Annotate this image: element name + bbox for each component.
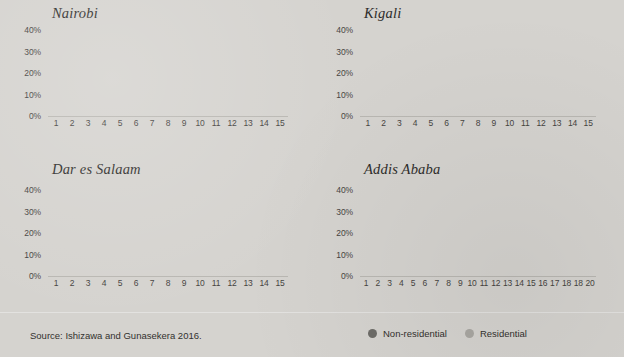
bar-slot[interactable] bbox=[176, 30, 192, 116]
bar-slot[interactable] bbox=[384, 190, 396, 276]
bar-slot[interactable] bbox=[502, 190, 514, 276]
x-tick-label: 18 bbox=[572, 278, 584, 288]
bar-slot[interactable] bbox=[561, 190, 573, 276]
y-tick-label: 30% bbox=[336, 47, 353, 57]
bar-slot[interactable] bbox=[407, 190, 419, 276]
x-tick-label: 7 bbox=[431, 278, 443, 288]
bar-slot[interactable] bbox=[549, 30, 565, 116]
bar-slot[interactable] bbox=[224, 30, 240, 116]
bar-slot[interactable] bbox=[490, 190, 502, 276]
x-tick-label: 13 bbox=[240, 278, 256, 288]
y-tick-label: 20% bbox=[336, 68, 353, 78]
bar-slot[interactable] bbox=[391, 30, 407, 116]
bar-slot[interactable] bbox=[80, 30, 96, 116]
bar-slot[interactable] bbox=[525, 190, 537, 276]
bar-slot[interactable] bbox=[360, 30, 376, 116]
bar-slot[interactable] bbox=[517, 30, 533, 116]
bar-slot[interactable] bbox=[443, 190, 455, 276]
bar-slot[interactable] bbox=[96, 190, 112, 276]
bar-slot[interactable] bbox=[454, 30, 470, 116]
bar-slot[interactable] bbox=[466, 190, 478, 276]
bar-slot[interactable] bbox=[470, 30, 486, 116]
bar-slot[interactable] bbox=[160, 190, 176, 276]
bar-slot[interactable] bbox=[240, 30, 256, 116]
plot-area-dar-es-salaam bbox=[48, 190, 288, 276]
bar-slot[interactable] bbox=[176, 190, 192, 276]
x-tick-label: 13 bbox=[240, 118, 256, 128]
bar-slot[interactable] bbox=[580, 30, 596, 116]
bar-group-kigali bbox=[360, 30, 596, 116]
y-tick-label: 10% bbox=[24, 90, 41, 100]
bar-slot[interactable] bbox=[423, 30, 439, 116]
y-tick-label: 0% bbox=[29, 111, 41, 121]
x-tick-label: 7 bbox=[144, 118, 160, 128]
bar-slot[interactable] bbox=[439, 30, 455, 116]
bar-slot[interactable] bbox=[376, 30, 392, 116]
bar-slot[interactable] bbox=[486, 30, 502, 116]
x-axis-line-nairobi bbox=[48, 116, 288, 117]
x-tick-label: 3 bbox=[80, 278, 96, 288]
chart-title-dar-es-salaam: Dar es Salaam bbox=[52, 161, 141, 178]
x-tick-label: 7 bbox=[144, 278, 160, 288]
bar-slot[interactable] bbox=[80, 190, 96, 276]
bar-slot[interactable] bbox=[208, 30, 224, 116]
bar-slot[interactable] bbox=[549, 190, 561, 276]
bar-slot[interactable] bbox=[478, 190, 490, 276]
bar-slot[interactable] bbox=[128, 190, 144, 276]
x-tick-label: 2 bbox=[64, 118, 80, 128]
x-tick-label: 12 bbox=[533, 118, 549, 128]
bar-slot[interactable] bbox=[112, 30, 128, 116]
bar-slot[interactable] bbox=[372, 190, 384, 276]
bar-slot[interactable] bbox=[537, 190, 549, 276]
bar-slot[interactable] bbox=[64, 190, 80, 276]
x-tick-label: 3 bbox=[391, 118, 407, 128]
figure-footer: Source: Ishizawa and Gunasekera 2016. No… bbox=[0, 312, 624, 357]
legend-label-non-residential: Non-residential bbox=[383, 328, 447, 339]
bar-slot[interactable] bbox=[112, 190, 128, 276]
legend-swatch-residential-icon bbox=[465, 329, 474, 338]
bar-slot[interactable] bbox=[272, 190, 288, 276]
bar-slot[interactable] bbox=[208, 190, 224, 276]
bar-slot[interactable] bbox=[395, 190, 407, 276]
bar-slot[interactable] bbox=[192, 30, 208, 116]
bar-slot[interactable] bbox=[502, 30, 518, 116]
bar-slot[interactable] bbox=[64, 30, 80, 116]
y-tick-label: 0% bbox=[341, 111, 353, 121]
bar-slot[interactable] bbox=[419, 190, 431, 276]
bar-slot[interactable] bbox=[360, 190, 372, 276]
bar-slot[interactable] bbox=[584, 190, 596, 276]
bar-group-addis-ababa bbox=[360, 190, 596, 276]
x-tick-label: 4 bbox=[96, 278, 112, 288]
bar-slot[interactable] bbox=[256, 30, 272, 116]
plot-area-addis-ababa bbox=[360, 190, 596, 276]
bar-slot[interactable] bbox=[128, 30, 144, 116]
y-axis-dar-es-salaam: 40%30%20%10%0% bbox=[0, 190, 44, 276]
x-tick-label: 14 bbox=[565, 118, 581, 128]
bar-slot[interactable] bbox=[431, 190, 443, 276]
plot-area-kigali bbox=[360, 30, 596, 116]
bar-slot[interactable] bbox=[48, 190, 64, 276]
bar-slot[interactable] bbox=[272, 30, 288, 116]
bar-slot[interactable] bbox=[192, 190, 208, 276]
bar-slot[interactable] bbox=[96, 30, 112, 116]
bar-slot[interactable] bbox=[513, 190, 525, 276]
bar-slot[interactable] bbox=[240, 190, 256, 276]
bar-slot[interactable] bbox=[565, 30, 581, 116]
bar-slot[interactable] bbox=[144, 190, 160, 276]
bar-slot[interactable] bbox=[533, 30, 549, 116]
y-axis-kigali: 40%30%20%10%0% bbox=[312, 30, 356, 116]
x-tick-label: 16 bbox=[537, 278, 549, 288]
bar-slot[interactable] bbox=[572, 190, 584, 276]
x-tick-label: 18 bbox=[561, 278, 573, 288]
bar-slot[interactable] bbox=[407, 30, 423, 116]
bar-slot[interactable] bbox=[224, 190, 240, 276]
bar-slot[interactable] bbox=[144, 30, 160, 116]
x-tick-label: 9 bbox=[486, 118, 502, 128]
bar-slot[interactable] bbox=[160, 30, 176, 116]
bar-slot[interactable] bbox=[256, 190, 272, 276]
bar-slot[interactable] bbox=[48, 30, 64, 116]
y-tick-label: 0% bbox=[29, 271, 41, 281]
x-tick-label: 14 bbox=[513, 278, 525, 288]
bar-slot[interactable] bbox=[454, 190, 466, 276]
x-tick-label: 11 bbox=[208, 118, 224, 128]
